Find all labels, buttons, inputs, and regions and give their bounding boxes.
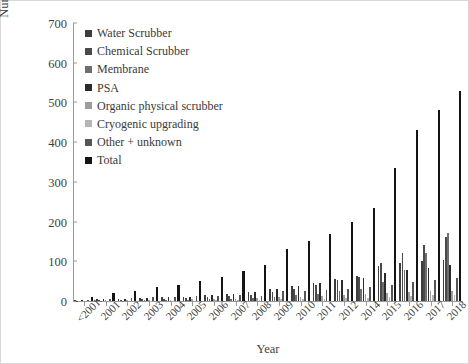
legend-item: Chemical Scrubber	[85, 45, 223, 57]
y-axis-tick: 500	[48, 93, 73, 111]
bar-group	[225, 23, 247, 301]
y-axis-tick-label: 500	[48, 96, 73, 111]
y-axis-tick: 400	[48, 133, 73, 151]
chart-legend: Water ScrubberChemical ScrubberMembraneP…	[85, 27, 223, 166]
bar-group	[311, 23, 333, 301]
legend-swatch-icon	[85, 139, 92, 146]
legend-swatch-icon	[85, 120, 92, 127]
bar	[126, 300, 128, 301]
legend-item: Total	[85, 154, 223, 166]
legend-item: Membrane	[85, 63, 223, 75]
legend-label: Total	[97, 154, 122, 166]
legend-label: Membrane	[97, 63, 149, 75]
legend-label: Cryogenic upgrading	[97, 118, 199, 130]
legend-label: Organic physical scrubber	[97, 100, 223, 112]
bar-group	[420, 23, 442, 301]
bar-group	[246, 23, 268, 301]
legend-swatch-icon	[85, 66, 92, 73]
legend-item: Organic physical scrubber	[85, 100, 223, 112]
legend-swatch-icon	[85, 84, 92, 91]
bar	[308, 241, 310, 301]
bar	[394, 168, 396, 301]
y-axis-tick-label: 300	[48, 176, 73, 191]
bar	[242, 271, 244, 301]
y-axis-tick-label: 400	[48, 136, 73, 151]
bar	[438, 110, 440, 301]
y-axis-tick: 600	[48, 54, 73, 72]
bar	[351, 222, 353, 301]
bar	[391, 285, 393, 301]
y-axis-tick-label: 700	[48, 17, 73, 32]
bar-group	[376, 23, 398, 301]
bar-group	[290, 23, 312, 301]
bar	[416, 130, 418, 301]
bar	[456, 278, 458, 301]
bar	[105, 300, 107, 301]
bar-group	[398, 23, 420, 301]
bar	[264, 265, 266, 301]
legend-label: PSA	[97, 82, 119, 94]
y-axis-tick: 700	[48, 14, 73, 32]
y-axis-title: Number of upgrading plants	[0, 0, 12, 47]
y-axis-tick-label: 600	[48, 57, 73, 72]
y-axis-tick-label: 0	[61, 295, 73, 310]
bar-group	[333, 23, 355, 301]
bar-group	[355, 23, 377, 301]
chart-figure: Number of upgrading plants 0100200300400…	[0, 0, 469, 364]
y-axis-tick-label: 100	[48, 255, 73, 270]
legend-item: Other + unknown	[85, 136, 223, 148]
y-axis-tick: 300	[48, 173, 73, 191]
bar-group	[268, 23, 290, 301]
legend-swatch-icon	[85, 48, 92, 55]
legend-swatch-icon	[85, 30, 92, 37]
legend-label: Other + unknown	[97, 136, 182, 148]
bar	[434, 280, 436, 301]
bar	[329, 234, 331, 302]
bar	[412, 282, 414, 301]
legend-label: Chemical Scrubber	[97, 45, 189, 57]
y-axis-tick-label: 200	[48, 216, 73, 231]
legend-item: PSA	[85, 82, 223, 94]
x-axis-title: Year	[73, 342, 463, 357]
bar	[373, 208, 375, 301]
y-axis-tick: 0	[61, 292, 73, 310]
y-axis-tick: 100	[48, 252, 73, 270]
bar-group	[441, 23, 463, 301]
legend-label: Water Scrubber	[97, 27, 172, 39]
bar	[369, 287, 371, 301]
legend-swatch-icon	[85, 157, 92, 164]
legend-item: Water Scrubber	[85, 27, 223, 39]
bar	[286, 249, 288, 301]
legend-swatch-icon	[85, 102, 92, 109]
bar	[459, 91, 461, 301]
legend-item: Cryogenic upgrading	[85, 118, 223, 130]
y-axis-tick: 200	[48, 213, 73, 231]
